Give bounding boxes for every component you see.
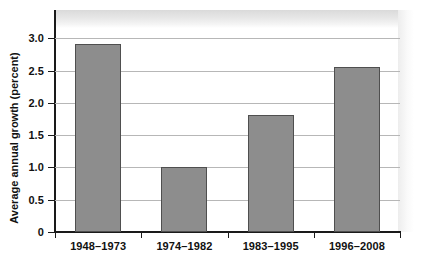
y-axis-tick-label: 0.5 [28,194,44,206]
y-axis-tick [48,167,55,168]
x-axis-tick [400,232,401,238]
x-axis-tick-label: 1974–1982 [156,240,212,252]
y-axis-tick [48,135,55,136]
scan-artifact-band [56,10,400,28]
x-axis-tick [141,232,142,238]
x-axis-tick [314,232,315,238]
x-axis-tick-label: 1996–2008 [329,240,385,252]
y-axis-tick [48,38,55,39]
x-axis-tick [55,232,56,238]
bar-chart: Average annual growth (percent) 00.51.01… [0,0,426,259]
bar [161,167,207,232]
x-axis-tick [228,232,229,238]
bar [248,115,294,232]
bar [334,67,380,232]
gridline [55,38,400,39]
y-axis-title: Average annual growth (percent) [8,52,20,223]
y-axis-tick-label: 3.0 [28,32,44,44]
y-axis-tick-label: 2.0 [28,97,44,109]
y-axis-tick [48,232,55,233]
x-axis-tick-label: 1983–1995 [243,240,299,252]
plot-area: 00.51.01.52.02.53.0 [55,32,400,232]
y-axis-tick [48,103,55,104]
y-axis-tick-label: 1.5 [28,129,44,141]
y-axis-tick-label: 1.0 [28,161,44,173]
y-axis-title-wrapper: Average annual growth (percent) [14,0,15,259]
y-axis-tick-label: 2.5 [28,65,44,77]
scan-artifact-edge [398,10,414,232]
bar [75,44,121,232]
y-axis-tick [48,200,55,201]
y-axis-tick-label: 0 [38,226,44,238]
x-axis-tick-label: 1948–1973 [70,240,126,252]
y-axis-tick [48,71,55,72]
